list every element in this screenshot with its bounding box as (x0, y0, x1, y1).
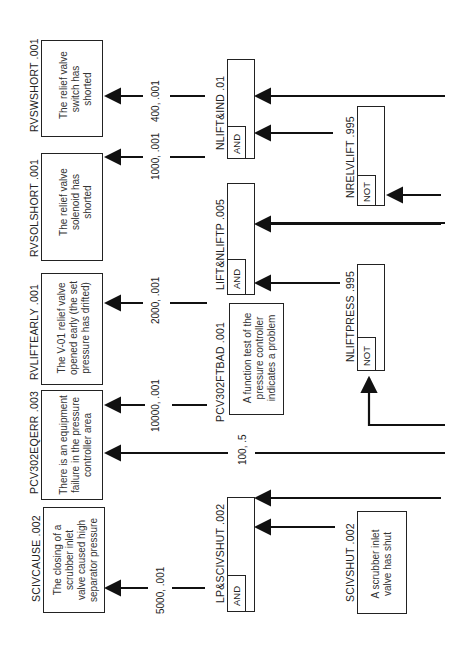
event-box-pcv302eqerr: There is an equipment failure in the pre… (41, 390, 103, 500)
event-desc: A scrubber inlet valve has shut (370, 528, 394, 600)
desc-line: The relief valve (58, 59, 70, 119)
desc-line: opened early (the set (68, 278, 80, 378)
desc-line: pressure has drifted) (80, 278, 92, 378)
event-label-rvliftearly: RVLIFTEARLY .001 (28, 284, 40, 380)
desc-line: The relief valve (58, 162, 70, 242)
desc-line: separator pressure (88, 518, 100, 602)
event-box-rvsolshort: The relief valve solenoid has shorted (41, 153, 103, 261)
gate-label-nliftind: NLIFT&IND .01 (214, 76, 226, 150)
gate-label-nrelvlift: NRELVLIFT .995 (344, 116, 356, 198)
desc-line: A function test of the (242, 308, 254, 408)
gate-type-text: AND (231, 134, 242, 154)
desc-line: shorted (82, 162, 94, 242)
desc-line: pressure controller (254, 308, 266, 408)
event-label-rvswshort: RVSWSHORT .001 (28, 38, 40, 132)
event-box-rvswshort: The relief valve switch has shorted (41, 40, 103, 137)
event-box-scivshut: A scrubber inlet valve has shut (357, 511, 407, 614)
event-label-scivshut: SCIVSHUT .002 (344, 523, 356, 602)
event-desc: The relief valve switch has shorted (58, 59, 94, 119)
desc-line: controller area (82, 395, 94, 495)
event-box-rvliftearly: The V-01 relief valve opened early (the … (41, 273, 103, 385)
event-label-pcv302eqerr: PCV302EQERR .003 (28, 391, 40, 494)
gate-type-and: AND (227, 126, 246, 159)
event-desc: There is an equipment failure in the pre… (58, 395, 94, 495)
desc-line: shorted (82, 59, 94, 119)
event-label-pcv302ftbad: PCV302FTBAD .001 (214, 322, 226, 422)
desc-line: The V-01 relief valve (56, 278, 68, 378)
gate-type-and: AND (227, 259, 246, 295)
gate-type-and: AND (227, 575, 246, 612)
event-desc: The closing of a scrubber inlet valve ca… (52, 518, 100, 602)
gate-type-not: NOT (357, 337, 376, 371)
gate-type-text: NOT (361, 346, 372, 366)
event-box-pcv302ftbad: A function test of the pressure controll… (229, 303, 284, 415)
desc-line: A scrubber inlet (370, 528, 382, 600)
link-value-10000: 10000, .001 (150, 379, 161, 432)
gate-label-liftnliftp: LIFT&NLIFTP .005 (214, 199, 226, 290)
event-label-scivcause: SCIVCAUSE .002 (30, 515, 42, 602)
link-value-100: 100, .5 (237, 434, 248, 465)
desc-line: switch has (70, 59, 82, 119)
link-value-2000: 2000, .001 (150, 277, 161, 324)
event-box-scivcause: The closing of a scrubber inlet valve ca… (43, 507, 105, 613)
gate-label-nliftpress: NLIFTPRESS .995 (344, 271, 356, 362)
event-desc: A function test of the pressure controll… (242, 308, 278, 408)
desc-line: scrubber inlet (64, 518, 76, 602)
desc-line: failure in the pressure (70, 395, 82, 495)
gate-type-text: AND (231, 269, 242, 289)
gate-type-not: NOT (357, 175, 376, 206)
desc-line: The closing of a (52, 518, 64, 602)
desc-line: solenoid has (70, 162, 82, 242)
event-desc: The relief valve solenoid has shorted (58, 162, 94, 242)
gate-type-text: AND (231, 586, 242, 606)
desc-line: indicates a problem (266, 308, 278, 408)
event-label-rvsolshort: RVSOLSHORT .001 (28, 159, 40, 257)
event-desc: The V-01 relief valve opened early (the … (56, 278, 92, 378)
link-value-5000: 5000, .001 (155, 567, 166, 614)
gate-label-lpscivshut: LP&SCIVSHUT .002 (214, 504, 226, 603)
desc-line: valve caused high (76, 518, 88, 602)
desc-line: valve has shut (382, 528, 394, 600)
link-value-1000: 1000, .001 (150, 133, 161, 180)
gate-type-text: NOT (361, 182, 372, 202)
link-value-400: 400, .001 (150, 80, 161, 122)
desc-line: There is an equipment (58, 395, 70, 495)
